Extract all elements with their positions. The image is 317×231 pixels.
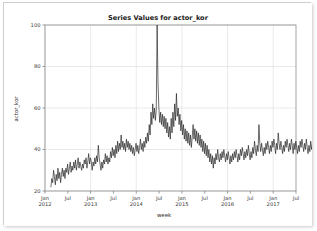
x-tick-label-month: Jul xyxy=(155,195,162,202)
x-tick-label-month: Jul xyxy=(64,195,71,202)
x-tick-label-year: 2014 xyxy=(130,201,144,207)
x-tick-label-year: 2015 xyxy=(175,201,188,207)
x-tick-label-year: 2016 xyxy=(221,201,234,207)
y-axis-title: actor_kor xyxy=(13,96,20,122)
x-tick-label-year: 2013 xyxy=(84,201,97,207)
x-tick-label-year: 2012 xyxy=(38,201,51,207)
y-tick-label: 80 xyxy=(34,63,41,69)
chart-area: Series Values for actor_kor actor_kor we… xyxy=(4,3,312,226)
chart-background xyxy=(4,3,312,226)
x-tick-label-month: Jul xyxy=(246,195,253,202)
x-tick-label-month: Jul xyxy=(201,195,208,202)
screenshot-root: Series Values for actor_kor actor_kor we… xyxy=(0,0,317,231)
x-tick-label-year: 2017 xyxy=(267,201,280,207)
time-series-chart: Series Values for actor_kor actor_kor we… xyxy=(4,3,312,226)
y-tick-label: 40 xyxy=(34,146,41,152)
x-axis-title: week xyxy=(157,212,172,218)
y-tick-label: 20 xyxy=(34,188,41,194)
x-tick-label-month: Jul xyxy=(109,195,116,202)
x-tick-label-month: Jul xyxy=(292,195,299,202)
y-tick-label: 60 xyxy=(34,105,41,111)
chart-window-frame: Series Values for actor_kor actor_kor we… xyxy=(3,2,311,225)
chart-title: Series Values for actor_kor xyxy=(108,14,209,22)
y-tick-label: 100 xyxy=(31,22,41,28)
